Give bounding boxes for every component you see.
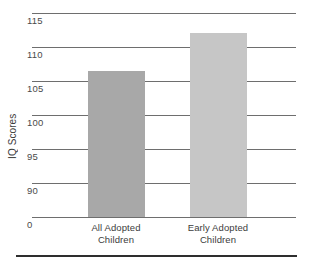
y-tick-label-90: 90 bbox=[27, 185, 38, 196]
gridline-100 bbox=[32, 115, 296, 116]
x-axis-label-early-adopted: Early Adopted Children bbox=[163, 222, 273, 245]
bar-early-adopted-children[interactable] bbox=[190, 33, 247, 217]
gridline-95 bbox=[32, 149, 296, 150]
x-axis-label-early-adopted-line2: Children bbox=[163, 234, 273, 246]
gridline-90 bbox=[32, 183, 296, 184]
y-tick-label-115: 115 bbox=[27, 15, 43, 26]
y-tick-label-0: 0 bbox=[27, 219, 32, 230]
y-tick-label-100: 100 bbox=[27, 117, 43, 128]
gridline-105 bbox=[32, 81, 296, 82]
bar-all-adopted-children[interactable] bbox=[88, 71, 145, 217]
x-axis-label-early-adopted-line1: Early Adopted bbox=[188, 222, 248, 233]
plot-area: 115 110 105 100 95 90 0 bbox=[0, 0, 315, 232]
y-tick-label-110: 110 bbox=[27, 49, 43, 60]
gridline-zero bbox=[32, 217, 296, 218]
gridline-110 bbox=[32, 47, 296, 48]
x-axis-label-all-adopted: All Adopted Children bbox=[61, 222, 171, 245]
y-tick-label-95: 95 bbox=[27, 151, 38, 162]
gridline-115 bbox=[32, 13, 296, 14]
bar-chart: IQ Scores 115 110 105 100 95 90 0 All Ad… bbox=[0, 0, 315, 270]
x-axis-label-all-adopted-line2: Children bbox=[61, 234, 171, 246]
x-axis-label-all-adopted-line1: All Adopted bbox=[91, 222, 140, 233]
y-tick-label-105: 105 bbox=[27, 83, 43, 94]
bottom-rule bbox=[16, 255, 297, 257]
